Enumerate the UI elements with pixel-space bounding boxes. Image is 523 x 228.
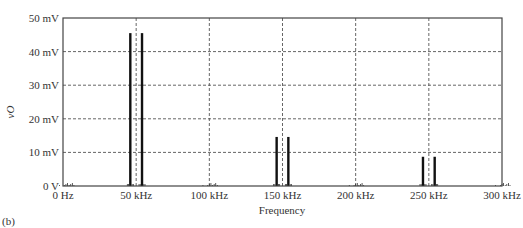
x-tick-label: 50 kHz	[120, 189, 152, 201]
x-tick-label: 300 kHz	[483, 189, 521, 201]
spectrum-peak	[422, 157, 424, 186]
noise-spike	[503, 183, 504, 186]
panel-label: (b)	[2, 215, 15, 228]
noise-spike	[508, 183, 509, 186]
spectrum-peak	[129, 33, 131, 186]
spectrum-peak	[433, 157, 435, 186]
x-tick-label: 0 Hz	[52, 189, 73, 201]
y-tick-label: 40 mV	[29, 46, 59, 58]
y-tick-label: 50 mV	[29, 12, 59, 24]
x-tick-label: 200 kHz	[337, 189, 375, 201]
spectrum-chart: 0 V10 mV20 mV30 mV40 mV50 mV 0 Hz50 kHz1…	[0, 0, 523, 228]
noise-spike	[505, 185, 506, 186]
y-tick-labels: 0 V10 mV20 mV30 mV40 mV50 mV	[29, 12, 59, 192]
y-tick-label: 10 mV	[29, 146, 59, 158]
y-tick-label: 30 mV	[29, 79, 59, 91]
spectrum-peak	[141, 33, 143, 186]
spectrum-peak	[287, 137, 289, 186]
spectrum-peak	[275, 137, 277, 186]
noise-spike	[59, 185, 60, 186]
x-tick-labels: 0 Hz50 kHz100 kHz150 kHz200 kHz250 kHz30…	[52, 189, 520, 201]
y-axis-label: vO	[4, 106, 16, 119]
x-axis-label: Frequency	[259, 204, 306, 216]
noise-spike	[510, 185, 511, 186]
y-tick-label: 20 mV	[29, 113, 59, 125]
x-tick-label: 100 kHz	[191, 189, 229, 201]
grid-lines	[63, 18, 502, 186]
noise-spike	[506, 184, 507, 186]
x-tick-label: 250 kHz	[410, 189, 448, 201]
spectrum-peaks	[59, 33, 510, 186]
x-tick-label: 150 kHz	[264, 189, 302, 201]
